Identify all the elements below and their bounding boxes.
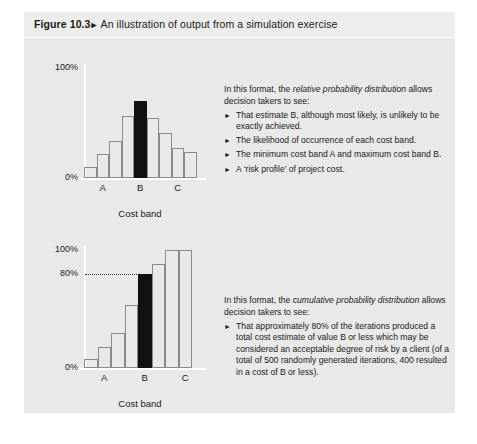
figure-panel: Figure 10.3►An illustration of output fr… <box>24 12 455 413</box>
intro-before: In this format, the <box>224 295 293 305</box>
bullet-triangle-icon: ► <box>224 149 231 161</box>
figure-number: Figure 10.3 <box>34 18 91 30</box>
bullet-item: ►That estimate B, although most likely, … <box>224 110 448 133</box>
y-tick-label: 100% <box>34 62 78 72</box>
y-tick-label: 0% <box>34 172 78 182</box>
bar-highlighted <box>134 101 147 178</box>
intro-before: In this format, the <box>224 84 293 94</box>
bar <box>172 148 185 178</box>
plot-area-relative: 100%0%ABCCost band <box>24 50 224 215</box>
band-label-b: B <box>137 372 153 383</box>
bullet-triangle-icon: ► <box>224 135 231 147</box>
x-axis-title: Cost band <box>64 398 216 409</box>
plot-area-cumulative: 100%80%0%ABCCost band <box>24 230 224 405</box>
bar <box>109 141 122 178</box>
bullet-item: ►The minimum cost band A and maximum cos… <box>224 149 448 161</box>
bar <box>179 250 193 368</box>
bar <box>147 118 160 179</box>
x-axis <box>70 368 206 370</box>
y-tick-label: 80% <box>34 268 78 278</box>
bullet-triangle-icon: ► <box>224 321 231 333</box>
bullet-triangle-icon: ► <box>224 164 231 176</box>
y-tick-label: 100% <box>34 244 78 254</box>
bar <box>111 333 125 368</box>
bullet-text: That approximately 80% of the iterations… <box>236 321 449 377</box>
bar <box>98 347 112 368</box>
chart-cumulative-probability: 100%80%0%ABCCost band <box>24 230 224 405</box>
bar <box>125 305 139 368</box>
panel-intro-relative: In this format, the relative probability… <box>224 84 448 107</box>
bar-highlighted <box>138 274 152 368</box>
bullet-triangle-icon: ► <box>224 110 231 122</box>
x-axis-title: Cost band <box>64 208 216 219</box>
figure-caption: Figure 10.3►An illustration of output fr… <box>34 18 337 30</box>
figure-arrow-icon: ► <box>90 20 99 30</box>
band-label-a: A <box>95 182 111 193</box>
text-panel-relative: In this format, the relative probability… <box>224 84 448 175</box>
bullet-text: A ‘risk profile’ of project cost. <box>236 164 345 174</box>
figure-caption-text: An illustration of output from a simulat… <box>101 18 338 30</box>
x-axis <box>70 178 206 180</box>
y-axis <box>84 64 86 178</box>
bar <box>159 133 172 178</box>
bullet-text: The likelihood of occurrence of each cos… <box>236 135 416 145</box>
band-label-a: A <box>96 372 112 383</box>
bar <box>84 167 97 178</box>
bar <box>184 152 197 178</box>
bullet-text: That estimate B, although most likely, i… <box>236 110 439 132</box>
bullet-list-cumulative: ►That approximately 80% of the iteration… <box>224 321 452 379</box>
bullet-item: ►That approximately 80% of the iteration… <box>224 321 452 379</box>
bar <box>84 359 98 368</box>
band-label-b: B <box>132 182 148 193</box>
bullet-item: ►A ‘risk profile’ of project cost. <box>224 164 448 176</box>
bar <box>122 116 135 178</box>
bar <box>97 154 110 178</box>
band-label-c: C <box>177 372 193 383</box>
bullet-list-relative: ►That estimate B, although most likely, … <box>224 110 448 175</box>
band-label-c: C <box>170 182 186 193</box>
bullet-text: The minimum cost band A and maximum cost… <box>236 149 441 159</box>
y-axis <box>84 246 86 368</box>
text-panel-cumulative: In this format, the cumulative probabili… <box>224 295 452 379</box>
y-tick-label: 0% <box>34 362 78 372</box>
chart-relative-probability: 100%0%ABCCost band <box>24 50 224 215</box>
intro-emphasis: relative probability distribution <box>293 84 406 94</box>
bullet-item: ►The likelihood of occurrence of each co… <box>224 135 448 147</box>
intro-emphasis: cumulative probability distribution <box>293 295 420 305</box>
bar <box>152 264 166 368</box>
figure-header: Figure 10.3►An illustration of output fr… <box>24 12 455 38</box>
panel-intro-cumulative: In this format, the cumulative probabili… <box>224 295 452 318</box>
bar <box>165 250 179 368</box>
